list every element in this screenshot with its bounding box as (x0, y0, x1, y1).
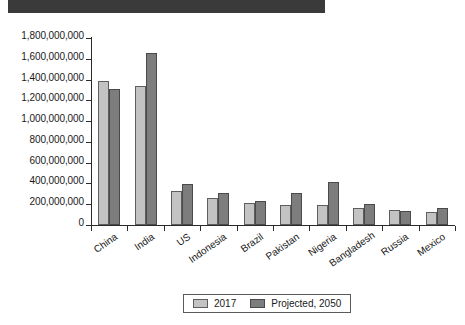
x-axis-tick-mark (455, 226, 456, 231)
bar-us-2017 (171, 191, 182, 225)
x-axis-tick-mark (309, 226, 310, 231)
x-axis-tick-mark (200, 226, 201, 231)
bar-india-2050 (146, 53, 157, 225)
legend-entry: Projected, 2050 (250, 299, 341, 309)
bar-india-2017 (135, 86, 146, 225)
bar-pakistan-2017 (280, 205, 291, 225)
chart-legend: 2017Projected, 2050 (183, 294, 351, 313)
y-axis-tick-label: 0 (79, 218, 84, 228)
bar-group (280, 38, 302, 225)
bar-pakistan-2050 (291, 193, 302, 225)
bar-china-2017 (98, 81, 109, 225)
y-axis-tick-label: 1,000,000,000 (21, 114, 84, 124)
x-axis-tick-mark (127, 226, 128, 231)
bar-indonesia-2050 (218, 193, 229, 225)
bar-brazil-2017 (244, 203, 255, 225)
x-axis-tick-mark (91, 226, 92, 231)
x-axis-tick-mark (346, 226, 347, 231)
bar-group (98, 38, 120, 225)
x-axis-tick-mark (382, 226, 383, 231)
bar-brazil-2050 (255, 201, 266, 225)
bar-group (171, 38, 193, 225)
y-axis-tick-label: 400,000,000 (29, 176, 84, 186)
x-axis-tick-mark (419, 226, 420, 231)
plot-area (91, 38, 455, 225)
bar-nigeria-2050 (328, 182, 339, 225)
legend-swatch-icon (193, 299, 208, 308)
bar-group (317, 38, 339, 225)
bar-group (244, 38, 266, 225)
bar-russia-2050 (400, 211, 411, 225)
bar-china-2050 (109, 89, 120, 225)
bar-group (135, 38, 157, 225)
legend-label: Projected, 2050 (271, 299, 341, 309)
y-axis-tick-label: 600,000,000 (29, 156, 84, 166)
bar-nigeria-2017 (317, 205, 328, 225)
x-axis-tick-mark (164, 226, 165, 231)
x-axis-tick-mark (273, 226, 274, 231)
bar-chart: 1,800,000,0001,600,000,0001,400,000,0001… (0, 0, 465, 325)
y-axis-tick-label: 1,600,000,000 (21, 52, 84, 62)
bar-mexico-2017 (426, 212, 437, 225)
y-axis-tick-label: 1,400,000,000 (21, 73, 84, 83)
bar-group (207, 38, 229, 225)
y-axis-tick-label: 800,000,000 (29, 135, 84, 145)
bar-bangladesh-2017 (353, 208, 364, 225)
bar-mexico-2050 (437, 208, 448, 225)
bar-indonesia-2017 (207, 198, 218, 225)
bar-russia-2017 (389, 210, 400, 225)
legend-entry: 2017 (193, 299, 236, 309)
y-axis-tick-label: 1,200,000,000 (21, 93, 84, 103)
bar-group (353, 38, 375, 225)
bar-us-2050 (182, 184, 193, 225)
x-axis-tick-mark (237, 226, 238, 231)
legend-swatch-icon (250, 299, 265, 308)
bar-group (426, 38, 448, 225)
bar-group (389, 38, 411, 225)
legend-label: 2017 (214, 299, 236, 309)
y-axis-tick-label: 200,000,000 (29, 197, 84, 207)
y-axis-tick-label: 1,800,000,000 (21, 31, 84, 41)
bar-bangladesh-2050 (364, 204, 375, 225)
